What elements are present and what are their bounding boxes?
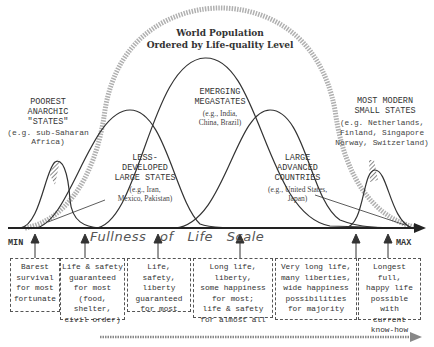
axis-max-label: MAX — [396, 238, 411, 248]
example-most-modern: (e.g. Netherlands, Finland, Singapore No… — [330, 118, 434, 148]
label-emerging: EMERGING MEGASTATES — [170, 87, 270, 107]
axis-title: Fullness of Life Scale — [90, 229, 264, 244]
poorest-hatch — [50, 160, 60, 185]
axis-min-label: MIN — [8, 238, 23, 248]
axis-arrowhead — [414, 223, 426, 233]
example-large-advanced: (e.g., United States, Japan) — [250, 185, 345, 203]
level-box-3: Life, safety, liberty guaranteed for mos… — [127, 258, 191, 312]
level-box-1: Barest survival for most fortunate — [10, 258, 60, 312]
example-less-developed: (e.g., Iran, Mexico, Pakistan) — [95, 185, 195, 203]
level-box-5: Very long life, many liberties, wide hap… — [275, 258, 357, 320]
diagram-title: World Population Ordered by Life-quality… — [130, 27, 310, 51]
example-poorest: (e.g. sub-Saharan Africa) — [2, 128, 94, 146]
progress-arrowhead — [410, 332, 422, 342]
example-emerging: (e.g., India, China, Brazil) — [170, 109, 270, 127]
level-box-2: Life & safety guaranteed for most (food,… — [60, 258, 125, 320]
label-large-advanced: LARGE ADVANCED COUNTRIES — [250, 153, 345, 183]
most-modern-hatch — [369, 160, 378, 182]
poorest-curve — [20, 161, 100, 228]
level-box-4: Long life, liberty, some happiness for m… — [193, 258, 273, 318]
label-most-modern: MOST MODERN SMALL STATES — [340, 96, 430, 116]
label-poorest: POOREST ANARCHIC "STATES" — [8, 97, 88, 127]
label-less-developed: LESS- DEVELOPED LARGE STATES — [95, 153, 195, 183]
level-box-6: Longest full, happy life possible with c… — [358, 258, 421, 320]
